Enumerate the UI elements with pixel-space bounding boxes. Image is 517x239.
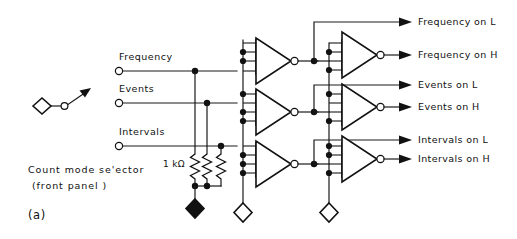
resistor-intervals-zigzag <box>217 154 226 179</box>
g2i-triangle <box>342 136 377 182</box>
circuit-diagram: Frequency Events Intervals 1 kΩ Frequenc… <box>0 0 517 239</box>
switch-arrow-head <box>80 88 92 98</box>
label-input-frequency: Frequency <box>119 51 173 62</box>
g1f-triangle <box>256 38 291 84</box>
g2f-triangle <box>342 32 377 78</box>
g1f-dot-1 <box>240 49 246 55</box>
label-figure-id: (a) <box>28 208 46 222</box>
ground-symbol-filled-diamond <box>186 199 204 218</box>
resistor-intervals <box>217 146 226 186</box>
g1f-output-bubble <box>291 57 298 64</box>
ground-symbol-stage2-diamond <box>320 203 338 222</box>
inverter-events-stage1[interactable] <box>240 89 318 135</box>
g1e-triangle <box>256 89 291 135</box>
resistor-ground-rail <box>186 183 221 218</box>
inverter-intervals-stage1[interactable] <box>240 141 318 187</box>
input-frequency[interactable] <box>115 67 237 74</box>
arrow-intervals-on-L <box>399 136 412 145</box>
input-intervals[interactable] <box>115 142 237 149</box>
input-terminal-frequency[interactable] <box>115 67 122 74</box>
resistor-events <box>203 103 212 186</box>
arrow-events-on-L <box>399 81 412 90</box>
input-terminal-events[interactable] <box>115 99 122 106</box>
arrow-frequency-on-H <box>399 51 412 60</box>
g2f-dot-1 <box>326 49 332 55</box>
label-caption-line1: Count mode se'ector <box>28 164 144 175</box>
inverter-frequency-stage2[interactable] <box>326 32 412 78</box>
g2e-dot-3 <box>326 118 332 124</box>
label-output-intervals-on-h: Intervals on H <box>418 153 490 164</box>
label-output-events-on-l: Events on L <box>418 79 478 90</box>
label-output-frequency-on-h: Frequency on H <box>418 49 498 60</box>
arrow-intervals-on-H <box>399 155 412 164</box>
g2e-output-bubble <box>377 103 384 110</box>
g2f-dot-3 <box>326 67 332 73</box>
label-input-events: Events <box>119 83 154 94</box>
inverter-frequency-stage1[interactable] <box>240 38 318 84</box>
label-output-events-on-h: Events on H <box>418 101 480 112</box>
g1f-dot-2 <box>240 58 246 64</box>
rail-dot-mid <box>204 183 210 189</box>
g2i-dot-1 <box>326 152 332 158</box>
g2f-output-bubble <box>377 51 384 58</box>
g1i-dot-1 <box>240 152 246 158</box>
label-resistor-value: 1 kΩ <box>163 159 185 169</box>
resistor-events-zigzag <box>203 154 212 179</box>
g1i-dot-2 <box>240 161 246 167</box>
g1e-dot-3 <box>240 118 246 124</box>
inverter-events-stage2[interactable] <box>326 84 412 130</box>
label-output-intervals-on-l: Intervals on L <box>418 134 488 145</box>
switch-pivot-circle <box>61 103 68 110</box>
resistor-frequency <box>191 71 200 186</box>
label-output-frequency-on-l: Frequency on L <box>418 16 496 27</box>
g2e-triangle <box>342 84 377 130</box>
stage1-bus <box>234 40 252 222</box>
g1i-triangle <box>256 141 291 187</box>
g2i-output-bubble <box>377 155 384 162</box>
switch-pole-diamond <box>33 98 51 114</box>
input-terminal-intervals[interactable] <box>115 142 122 149</box>
count-mode-selector-switch[interactable] <box>33 88 91 114</box>
g1i-dot-3 <box>240 170 246 176</box>
label-caption-line2: (front panel ) <box>32 180 107 191</box>
g1e-dot-0 <box>240 91 246 97</box>
g1e-dot-2 <box>240 109 246 115</box>
g1e-output-bubble <box>291 108 298 115</box>
arrow-events-on-H <box>399 103 412 112</box>
arrow-frequency-on-L <box>399 18 412 27</box>
resistor-frequency-zigzag <box>191 154 200 179</box>
ground-symbol-stage1-diamond <box>234 203 252 222</box>
g2e-dot-0 <box>326 91 332 97</box>
circuit-svg: Frequency Events Intervals 1 kΩ Frequenc… <box>0 0 517 239</box>
g1i-output-bubble <box>291 160 298 167</box>
input-events[interactable] <box>115 99 237 106</box>
label-input-intervals: Intervals <box>119 126 165 137</box>
g2i-dot-3 <box>326 170 332 176</box>
g2i-dot-0 <box>326 143 332 149</box>
